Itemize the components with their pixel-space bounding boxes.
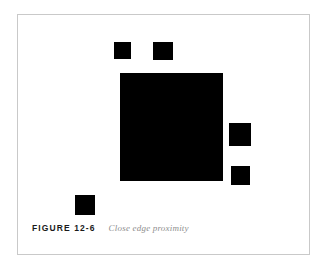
figure-page: FIGURE 12-6 Close edge proximity (0, 0, 327, 269)
small-square-right-lower (231, 166, 250, 185)
large-square-center (120, 73, 223, 181)
figure-caption: FIGURE 12-6 Close edge proximity (32, 223, 189, 233)
small-square-right-upper (229, 123, 251, 146)
small-square-top-right (153, 42, 173, 60)
figure-artwork-canvas (18, 15, 309, 219)
figure-caption-label: FIGURE 12-6 (32, 223, 96, 233)
small-square-bottom-left (75, 195, 95, 215)
small-square-top-left (114, 42, 131, 59)
figure-frame-border: FIGURE 12-6 Close edge proximity (17, 14, 310, 255)
figure-caption-text: Close edge proximity (109, 223, 189, 233)
